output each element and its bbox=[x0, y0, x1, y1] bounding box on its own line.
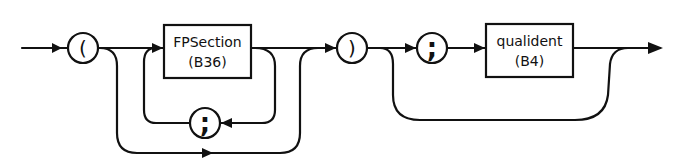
arrow-into-close-paren-icon bbox=[325, 43, 336, 53]
terminal-close-paren: ) bbox=[337, 33, 367, 63]
terminal-semicolon-result: ; bbox=[417, 33, 447, 63]
nonterminal-qualident: qualident (B4) bbox=[486, 24, 573, 77]
arrow-into-semicolon-icon bbox=[405, 43, 416, 53]
bypass-arrow-icon bbox=[202, 148, 213, 158]
fpsection-name: FPSection bbox=[173, 34, 242, 50]
nonterminal-fpsection: FPSection (B36) bbox=[164, 25, 251, 78]
semicolon-loop-label: ; bbox=[200, 108, 210, 138]
close-paren-label: ) bbox=[348, 36, 356, 60]
loop-arrow-icon bbox=[221, 118, 232, 128]
entry-arrow-icon bbox=[52, 43, 62, 53]
terminal-semicolon-loop: ; bbox=[190, 108, 220, 138]
qualident-ref: (B4) bbox=[515, 53, 544, 69]
terminal-open-paren: ( bbox=[68, 33, 98, 63]
qualident-name: qualident bbox=[497, 33, 563, 49]
open-paren-label: ( bbox=[79, 36, 87, 60]
syntax-diagram: ( FPSection (B36) ; ) ; qualident (B4 bbox=[0, 0, 681, 163]
semicolon-result-label: ; bbox=[427, 33, 437, 63]
arrow-into-qualident-icon bbox=[474, 43, 485, 53]
exit-arrow-icon bbox=[648, 42, 663, 54]
fpsection-ref: (B36) bbox=[188, 54, 226, 70]
